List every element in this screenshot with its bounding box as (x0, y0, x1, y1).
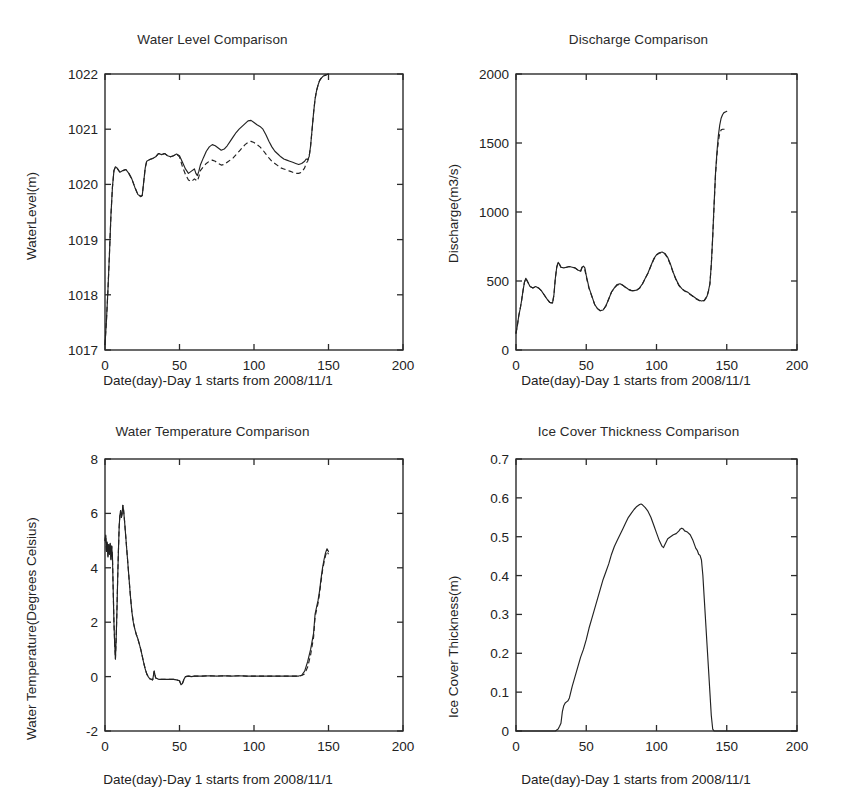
y-tick-label: 0 (90, 670, 98, 685)
yaxis-label-discharge: Discharge(m3/s) (446, 164, 461, 263)
x-tick-label: 50 (172, 358, 187, 373)
y-tick-label: 500 (486, 274, 509, 289)
x-tick-label: 200 (786, 358, 809, 373)
x-tick-label: 0 (512, 739, 520, 754)
x-tick-label: 150 (317, 739, 340, 754)
y-tick-label: 0.3 (490, 607, 509, 622)
x-tick-label: 50 (172, 739, 187, 754)
xaxis-label-ice-cover-thickness: Date(day)-Day 1 starts from 2008/11/1 (466, 772, 806, 787)
x-tick-label: 50 (579, 739, 594, 754)
xaxis-label-discharge: Date(day)-Day 1 starts from 2008/11/1 (466, 373, 806, 388)
x-tick-label: 150 (317, 358, 340, 373)
y-tick-label: 8 (90, 452, 98, 467)
x-tick-label: 200 (786, 739, 809, 754)
plot-area-water-temperature: 050100150200-202468 (0, 420, 425, 805)
y-tick-label: 1000 (479, 205, 509, 220)
y-tick-label: 1021 (68, 122, 98, 137)
plot-area-water-level: 050100150200101710181019102010211022 (0, 28, 425, 398)
series-dashed (105, 74, 329, 344)
yaxis-label-ice-cover-thickness: Ice Cover Thickness(m) (446, 576, 461, 718)
plot-frame (516, 459, 797, 731)
plot-area-discharge: 0501001502000500100015002000 (426, 28, 851, 398)
x-tick-label: 0 (101, 358, 109, 373)
yaxis-label-water-level: WaterLevel(m) (24, 172, 39, 260)
x-tick-label: 150 (715, 358, 738, 373)
plot-area-ice-cover-thickness: 05010015020000.10.20.30.40.50.60.7 (426, 420, 851, 805)
plot-frame (105, 459, 403, 731)
x-tick-label: 100 (243, 358, 266, 373)
figure-canvas: Water Level Comparison 05010015020010171… (0, 0, 851, 811)
plot-frame (516, 74, 797, 350)
panel-water-temperature: Water Temperature Comparison 05010015020… (0, 420, 425, 805)
x-tick-label: 50 (579, 358, 594, 373)
series-solid (105, 505, 329, 685)
y-tick-label: 0.7 (490, 452, 509, 467)
xaxis-label-water-temperature: Date(day)-Day 1 starts from 2008/11/1 (48, 772, 388, 787)
series-solid (105, 74, 329, 344)
y-tick-label: 0.2 (490, 646, 509, 661)
panel-water-level: Water Level Comparison 05010015020010171… (0, 28, 425, 398)
x-tick-label: 200 (392, 358, 415, 373)
x-tick-label: 200 (392, 739, 415, 754)
x-tick-label: 0 (101, 739, 109, 754)
x-tick-label: 100 (645, 358, 668, 373)
series-dashed (516, 129, 727, 333)
y-tick-label: -2 (86, 724, 98, 739)
y-tick-label: 0.4 (490, 569, 509, 584)
plot-frame (105, 74, 403, 350)
y-tick-label: 0.6 (490, 491, 509, 506)
y-tick-label: 1022 (68, 67, 98, 82)
panel-ice-cover-thickness: Ice Cover Thickness Comparison 050100150… (426, 420, 851, 805)
y-tick-label: 1018 (68, 288, 98, 303)
y-tick-label: 6 (90, 506, 98, 521)
y-tick-label: 0 (501, 724, 509, 739)
yaxis-label-water-temperature: Water Temperature(Degrees Celsius) (24, 517, 39, 740)
y-tick-label: 1500 (479, 136, 509, 151)
panel-discharge: Discharge Comparison 0501001502000500100… (426, 28, 851, 398)
xaxis-label-water-level: Date(day)-Day 1 starts from 2008/11/1 (48, 373, 388, 388)
y-tick-label: 0.1 (490, 685, 509, 700)
y-tick-label: 1020 (68, 177, 98, 192)
y-tick-label: 1019 (68, 233, 98, 248)
y-tick-label: 0 (501, 343, 509, 358)
y-tick-label: 1017 (68, 343, 98, 358)
x-tick-label: 100 (645, 739, 668, 754)
series-solid (516, 504, 797, 731)
x-tick-label: 150 (715, 739, 738, 754)
x-tick-label: 100 (243, 739, 266, 754)
y-tick-label: 0.5 (490, 530, 509, 545)
x-tick-label: 0 (512, 358, 520, 373)
series-solid (516, 111, 727, 333)
y-tick-label: 4 (90, 561, 98, 576)
y-tick-label: 2000 (479, 67, 509, 82)
series-dashed (105, 505, 329, 685)
y-tick-label: 2 (90, 615, 98, 630)
